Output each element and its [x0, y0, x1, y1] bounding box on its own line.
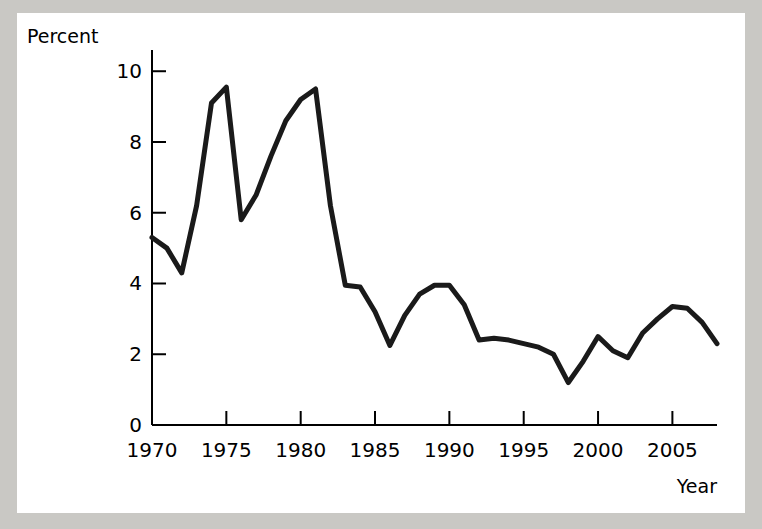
x-axis-title: Year	[676, 475, 717, 497]
y-axis-tick-label: 8	[129, 130, 142, 154]
x-axis-tick-label: 1970	[127, 438, 178, 462]
chart-svg: 0246810 19701975198019851990199520002005…	[17, 13, 745, 513]
x-axis-tick-label: 1990	[424, 438, 475, 462]
y-axis-tick-labels: 0246810	[117, 59, 142, 437]
y-axis-tick-label: 0	[129, 413, 142, 437]
y-axis-tick-label: 10	[117, 59, 142, 83]
x-axis-tick-label: 1995	[498, 438, 549, 462]
x-axis-ticks	[152, 411, 672, 425]
x-axis-tick-label: 2000	[573, 438, 624, 462]
y-axis-tick-label: 4	[129, 271, 142, 295]
y-axis-title: Percent	[27, 25, 99, 47]
line-chart: 0246810 19701975198019851990199520002005…	[17, 13, 745, 513]
x-axis-tick-label: 1975	[201, 438, 252, 462]
data-series-line	[152, 87, 717, 382]
y-axis-tick-label: 6	[129, 201, 142, 225]
screenshot-root: 0246810 19701975198019851990199520002005…	[0, 0, 762, 529]
figure-card: 0246810 19701975198019851990199520002005…	[17, 13, 745, 513]
x-axis-tick-label: 1980	[275, 438, 326, 462]
x-axis-tick-label: 1985	[350, 438, 401, 462]
x-axis-tick-labels: 19701975198019851990199520002005	[127, 438, 698, 462]
x-axis: 19701975198019851990199520002005	[127, 411, 717, 462]
y-axis-tick-label: 2	[129, 342, 142, 366]
x-axis-tick-label: 2005	[647, 438, 698, 462]
